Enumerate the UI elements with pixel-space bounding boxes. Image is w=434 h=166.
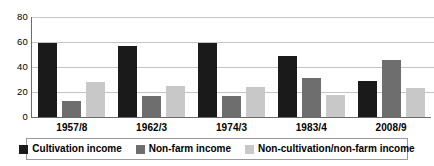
bar: [118, 46, 137, 117]
bar: [198, 43, 217, 117]
legend-item[interactable]: Cultivation income: [19, 144, 121, 154]
legend-swatch-icon: [245, 145, 254, 154]
y-tick-label: 80: [0, 12, 28, 22]
bar-group: [351, 17, 431, 117]
bar: [246, 87, 265, 117]
legend-label: Cultivation income: [32, 144, 121, 154]
x-axis: 1957/81962/31974/31983/42008/9: [32, 120, 431, 136]
legend-item[interactable]: Non-cultivation/non-farm income: [245, 144, 415, 154]
bar: [142, 96, 161, 117]
bar: [358, 81, 377, 117]
bar: [302, 78, 321, 117]
bar: [278, 56, 297, 117]
y-tick-label: 60: [0, 37, 28, 47]
x-tick-label: 1974/3: [192, 120, 272, 136]
bar-group: [112, 17, 192, 117]
bar-group: [271, 17, 351, 117]
bar-chart: 020406080 1957/81962/31974/31983/42008/9…: [0, 0, 434, 166]
x-tick-label: 1957/8: [32, 120, 112, 136]
plot-area: [31, 17, 431, 118]
x-tick-label: 1962/3: [112, 120, 192, 136]
bar: [38, 43, 57, 117]
legend-item[interactable]: Non-farm income: [136, 144, 231, 154]
legend-swatch-icon: [19, 145, 28, 154]
y-tick-label: 40: [0, 62, 28, 72]
bar: [382, 60, 401, 118]
bar-group: [32, 17, 112, 117]
bar: [166, 86, 185, 117]
bar: [406, 88, 425, 117]
legend-swatch-icon: [136, 145, 145, 154]
y-axis: 020406080: [0, 0, 28, 120]
bar: [86, 82, 105, 117]
bar: [222, 96, 241, 117]
legend-label: Non-cultivation/non-farm income: [258, 144, 415, 154]
legend-label: Non-farm income: [149, 144, 231, 154]
bar: [326, 95, 345, 118]
x-tick-label: 1983/4: [271, 120, 351, 136]
plot-wrapper: 020406080: [0, 0, 434, 120]
bar-group: [192, 17, 272, 117]
y-tick-label: 0: [0, 112, 28, 122]
y-tick-label: 20: [0, 87, 28, 97]
bar-groups: [32, 17, 431, 117]
chart-legend: Cultivation incomeNon-farm incomeNon-cul…: [26, 138, 408, 160]
x-tick-label: 2008/9: [351, 120, 431, 136]
bar: [62, 101, 81, 117]
